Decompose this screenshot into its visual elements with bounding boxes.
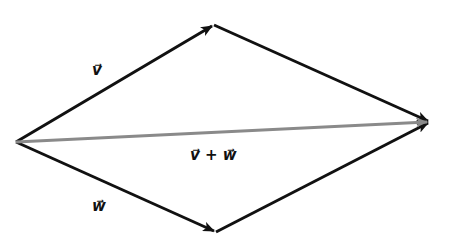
vector-sum-arrow [16, 122, 427, 142]
vector-addition-diagram: v⃗ w⃗ v⃗ + w⃗ [0, 0, 449, 239]
vector-w-translated-arrow [214, 25, 428, 121]
vector-v-arrow [16, 26, 212, 142]
label-w: w⃗ [92, 197, 106, 215]
vector-w-arrow [16, 142, 214, 231]
vector-v-translated-arrow [216, 123, 428, 232]
label-sum: v⃗ + w⃗ [190, 146, 237, 164]
label-v: v⃗ [92, 61, 103, 79]
